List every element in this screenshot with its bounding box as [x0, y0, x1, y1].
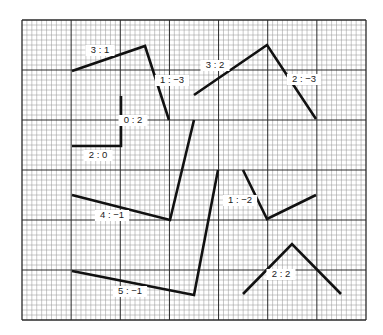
ratio-label: 5 : −1 — [118, 285, 142, 296]
slope-figure: 0 : 22 : 0 — [72, 96, 148, 161]
ratio-label: 0 : 2 — [124, 114, 143, 125]
figure-polyline — [243, 170, 316, 219]
ratio-label: 2 : 0 — [89, 149, 108, 160]
graph-paper-diagram: 3 : 11 : −30 : 22 : 03 : 22 : −34 : −15 … — [0, 0, 383, 335]
slope-figure: 3 : 11 : −3 — [72, 44, 189, 120]
figure-polyline — [72, 96, 121, 146]
graph-paper-grid — [22, 20, 366, 320]
ratio-label: 3 : 1 — [91, 44, 110, 55]
ratio-label: 2 : −3 — [292, 73, 316, 84]
ratio-label: 3 : 2 — [206, 59, 225, 70]
ratio-label: 2 : 2 — [272, 268, 291, 279]
ratio-label: 4 : −1 — [100, 209, 124, 220]
ratio-label: 1 : −2 — [228, 194, 252, 205]
ratio-label: 1 : −3 — [160, 74, 184, 85]
